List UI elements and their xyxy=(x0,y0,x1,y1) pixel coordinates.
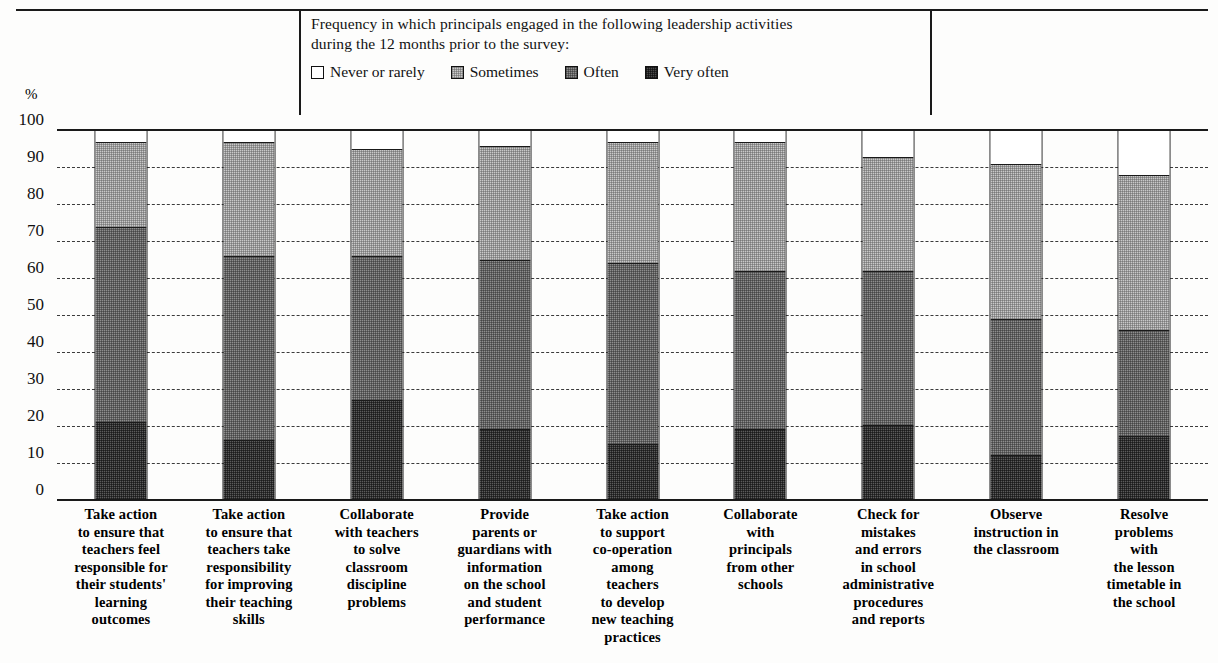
plot-area: 1009080706050403020100 xyxy=(57,130,1208,500)
stacked-bar[interactable] xyxy=(862,130,915,500)
legend-key-very-often: Very often xyxy=(645,63,729,81)
y-tick-70: 70 xyxy=(0,222,44,239)
bar-segment-never[interactable] xyxy=(223,131,274,142)
x-label-5: Take action to support co-operation amon… xyxy=(569,506,697,656)
bar-segment-veryoften[interactable] xyxy=(351,400,402,499)
y-tick-90: 90 xyxy=(0,148,44,165)
x-label-1: Take action to ensure that teachers feel… xyxy=(57,506,185,656)
bar-segment-veryoften[interactable] xyxy=(479,429,530,499)
legend-label-never: Never or rarely xyxy=(330,63,425,81)
y-tick-20: 20 xyxy=(0,407,44,424)
bar-segment-never[interactable] xyxy=(95,131,146,142)
x-label-7: Check for mistakes and errors in school … xyxy=(824,506,952,656)
bar-segment-often[interactable] xyxy=(95,227,146,422)
bar-segment-often[interactable] xyxy=(351,256,402,400)
stacked-bar[interactable] xyxy=(606,130,659,500)
bar-segment-veryoften[interactable] xyxy=(95,422,146,499)
legend-swatch-never-icon xyxy=(311,66,324,79)
legend-swatch-very-often-icon xyxy=(645,66,658,79)
y-tick-30: 30 xyxy=(0,370,44,387)
bar-column-9[interactable] xyxy=(1080,130,1208,500)
bar-segment-veryoften[interactable] xyxy=(735,429,786,499)
y-tick-50: 50 xyxy=(0,296,44,313)
x-label-8: Observe instruction in the classroom xyxy=(952,506,1080,656)
bar-segment-veryoften[interactable] xyxy=(223,440,274,499)
bar-segment-never[interactable] xyxy=(991,131,1042,164)
bar-segment-often[interactable] xyxy=(479,260,530,429)
bar-segment-sometimes[interactable] xyxy=(991,164,1042,319)
bar-column-8[interactable] xyxy=(952,130,1080,500)
top-rule xyxy=(16,9,1208,11)
stacked-bar[interactable] xyxy=(734,130,787,500)
bar-segment-never[interactable] xyxy=(1119,131,1170,175)
bar-column-7[interactable] xyxy=(824,130,952,500)
bar-group xyxy=(57,130,1208,500)
bar-column-1[interactable] xyxy=(57,130,185,500)
legend-label-very-often: Very often xyxy=(664,63,729,81)
bar-column-3[interactable] xyxy=(313,130,441,500)
legend-swatch-often-icon xyxy=(565,66,578,79)
y-tick-60: 60 xyxy=(0,259,44,276)
bar-column-4[interactable] xyxy=(441,130,569,500)
legend-divider-right xyxy=(930,11,932,115)
bar-segment-often[interactable] xyxy=(863,271,914,426)
y-tick-0: 0 xyxy=(0,481,44,498)
y-tick-10: 10 xyxy=(0,444,44,461)
legend-key-sometimes: Sometimes xyxy=(451,63,539,81)
bar-segment-often[interactable] xyxy=(1119,330,1170,437)
legend-key-often: Often xyxy=(565,63,619,81)
bar-segment-sometimes[interactable] xyxy=(735,142,786,271)
bar-segment-never[interactable] xyxy=(479,131,530,146)
bar-segment-sometimes[interactable] xyxy=(1119,175,1170,330)
bar-segment-often[interactable] xyxy=(607,263,658,443)
x-label-4: Provide parents or guardians with inform… xyxy=(441,506,569,656)
bar-segment-often[interactable] xyxy=(991,319,1042,455)
legend-label-sometimes: Sometimes xyxy=(470,63,539,81)
stacked-bar[interactable] xyxy=(990,130,1043,500)
stacked-bar[interactable] xyxy=(1118,130,1171,500)
stacked-bar[interactable] xyxy=(94,130,147,500)
bar-segment-veryoften[interactable] xyxy=(1119,436,1170,499)
x-label-3: Collaborate with teachers to solve class… xyxy=(313,506,441,656)
legend: Frequency in which principals engaged in… xyxy=(311,14,926,81)
legend-keys: Never or rarely Sometimes Often Very oft… xyxy=(311,63,926,81)
bar-segment-never[interactable] xyxy=(735,131,786,142)
y-tick-100: 100 xyxy=(0,111,44,128)
bar-column-5[interactable] xyxy=(569,130,697,500)
x-label-6: Collaborate with principals from other s… xyxy=(696,506,824,656)
bar-segment-sometimes[interactable] xyxy=(607,142,658,263)
chart-page: Frequency in which principals engaged in… xyxy=(0,0,1218,663)
bar-segment-often[interactable] xyxy=(735,271,786,429)
stacked-bar[interactable] xyxy=(478,130,531,500)
bar-segment-never[interactable] xyxy=(351,131,402,149)
bar-segment-veryoften[interactable] xyxy=(607,444,658,499)
bar-segment-sometimes[interactable] xyxy=(95,142,146,227)
bar-segment-sometimes[interactable] xyxy=(351,149,402,256)
y-tick-80: 80 xyxy=(0,185,44,202)
bar-segment-sometimes[interactable] xyxy=(863,157,914,271)
legend-divider-left xyxy=(299,11,301,115)
x-label-9: Resolve problems with the lesson timetab… xyxy=(1080,506,1208,656)
x-axis-labels: Take action to ensure that teachers feel… xyxy=(57,506,1208,656)
y-tick-40: 40 xyxy=(0,333,44,350)
x-label-2: Take action to ensure that teachers take… xyxy=(185,506,313,656)
y-axis-unit: % xyxy=(25,86,38,103)
bar-column-6[interactable] xyxy=(696,130,824,500)
stacked-bar[interactable] xyxy=(222,130,275,500)
bar-segment-never[interactable] xyxy=(607,131,658,142)
bar-segment-veryoften[interactable] xyxy=(863,425,914,499)
legend-swatch-sometimes-icon xyxy=(451,66,464,79)
bar-segment-never[interactable] xyxy=(863,131,914,157)
bar-segment-sometimes[interactable] xyxy=(479,146,530,260)
stacked-bar[interactable] xyxy=(350,130,403,500)
bar-segment-sometimes[interactable] xyxy=(223,142,274,256)
bar-segment-often[interactable] xyxy=(223,256,274,440)
bar-column-2[interactable] xyxy=(185,130,313,500)
legend-key-never: Never or rarely xyxy=(311,63,425,81)
legend-label-often: Often xyxy=(584,63,619,81)
bar-segment-veryoften[interactable] xyxy=(991,455,1042,499)
legend-caption: Frequency in which principals engaged in… xyxy=(311,14,926,54)
